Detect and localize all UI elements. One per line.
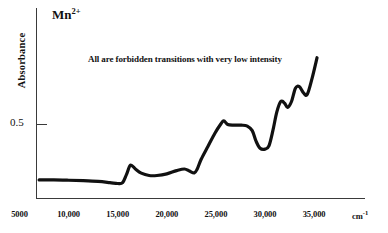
x-axis-tick-label-4: 25,000 — [205, 209, 228, 219]
x-axis-tick-label-5: 30,000 — [254, 209, 277, 219]
spectrum-curve — [0, 0, 388, 233]
x-axis-tick-label-3: 20,000 — [155, 209, 178, 219]
x-axis-tick-label-0: 5000 — [11, 209, 28, 219]
spectrum-figure: Absorbance 0.5 Mn2+ All are forbidden tr… — [0, 0, 388, 233]
x-axis-unit-exponent: -1 — [363, 209, 368, 216]
x-axis-tick-label-1: 10,000 — [57, 209, 80, 219]
x-axis-tick-label-6: 35,000 — [303, 209, 326, 219]
x-axis-unit-label: cm-1 — [352, 209, 368, 221]
spectrum-curve-path — [39, 58, 317, 184]
x-axis-unit-text: cm — [352, 211, 363, 221]
x-axis-tick-label-2: 15,000 — [106, 209, 129, 219]
